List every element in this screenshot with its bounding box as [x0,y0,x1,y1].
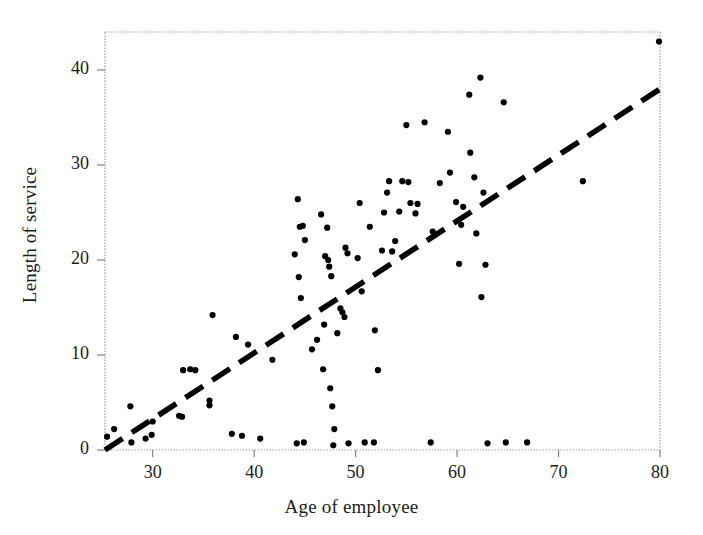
x-tick-label: 60 [437,462,477,483]
y-axis-label: Length of service [19,167,41,303]
data-points [104,38,662,448]
axis-ticks [97,70,660,457]
y-tick-label: 10 [49,343,89,364]
y-tick-label: 20 [49,248,89,269]
x-tick-label: 40 [234,462,274,483]
plot-canvas [0,0,703,535]
scatter-plot-figure: Length of service Age of employee 304050… [0,0,703,535]
x-tick-label: 80 [640,462,680,483]
x-tick-label: 70 [539,462,579,483]
y-tick-label: 0 [49,438,89,459]
x-axis-label: Age of employee [0,496,703,518]
x-tick-label: 50 [336,462,376,483]
x-tick-label: 30 [133,462,173,483]
y-tick-label: 30 [49,153,89,174]
y-tick-label: 40 [49,58,89,79]
plot-frame [105,32,660,450]
trend-line [105,89,660,450]
